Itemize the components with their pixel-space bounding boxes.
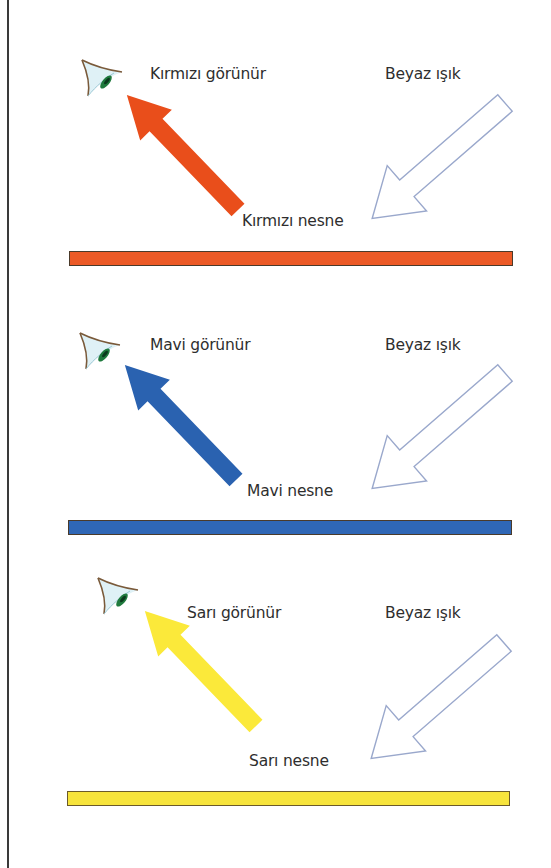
arrow-down-left-outline-icon bbox=[352, 350, 524, 511]
white-light-label-red: Beyaz ışık bbox=[385, 65, 461, 83]
object-bar-yellow bbox=[67, 791, 510, 806]
arrow-down-left-outline-icon bbox=[352, 80, 524, 241]
eye-icon bbox=[82, 60, 122, 96]
seen-label-yellow: Sarı görünür bbox=[187, 604, 281, 622]
eye-icon bbox=[80, 333, 120, 369]
object-bar-blue bbox=[68, 520, 512, 535]
light-reflection-diagram bbox=[0, 0, 551, 868]
white-light-label-yellow: Beyaz ışık bbox=[385, 604, 461, 622]
eye-icon bbox=[98, 578, 138, 614]
arrow-up-left-icon bbox=[109, 350, 252, 496]
object-label-red: Kırmızı nesne bbox=[242, 212, 344, 230]
seen-label-red: Kırmızı görünür bbox=[150, 65, 266, 83]
arrow-down-left-outline-icon bbox=[351, 620, 523, 781]
object-bar-red bbox=[69, 251, 513, 266]
arrow-up-left-icon bbox=[111, 80, 254, 226]
seen-label-blue: Mavi görünür bbox=[150, 336, 250, 354]
object-label-yellow: Sarı nesne bbox=[249, 752, 329, 770]
object-label-blue: Mavi nesne bbox=[247, 482, 333, 500]
white-light-label-blue: Beyaz ışık bbox=[385, 336, 461, 354]
